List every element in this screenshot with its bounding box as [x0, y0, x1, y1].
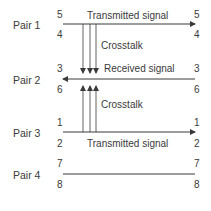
pair2-signal-label: Received signal — [104, 64, 175, 74]
pair4-label: Pair 4 — [13, 170, 40, 180]
pair3-signal-label: Transmitted signal — [87, 139, 168, 149]
pair4-left-top-pin: 7 — [57, 159, 63, 169]
pair1-right-top-pin: 5 — [194, 10, 200, 20]
pair4-left-bottom-pin: 8 — [57, 180, 63, 190]
pair4-right-top-pin: 7 — [194, 159, 200, 169]
pair2-label: Pair 2 — [13, 75, 40, 85]
pair1-left-top-pin: 5 — [57, 10, 63, 20]
pair3-left-bottom-pin: 2 — [57, 139, 63, 149]
pair3-right-top-pin: 1 — [194, 118, 200, 128]
pair4-right-bottom-pin: 8 — [194, 180, 200, 190]
pair3-right-bottom-pin: 2 — [194, 139, 200, 149]
pair1-left-bottom-pin: 4 — [57, 30, 63, 40]
crosstalk-upper-label: Crosstalk — [101, 41, 143, 51]
pair3-left-top-pin: 1 — [57, 118, 63, 128]
pair2-right-bottom-pin: 6 — [194, 85, 200, 95]
pair2-left-top-pin: 3 — [57, 64, 63, 74]
crosstalk-lower-label: Crosstalk — [101, 100, 143, 110]
pair1-signal-label: Transmitted signal — [87, 11, 168, 21]
pair3-label: Pair 3 — [13, 128, 40, 138]
pair1-right-bottom-pin: 4 — [194, 30, 200, 40]
pair1-label: Pair 1 — [13, 20, 40, 30]
pair2-right-top-pin: 3 — [194, 64, 200, 74]
pair2-left-bottom-pin: 6 — [57, 85, 63, 95]
